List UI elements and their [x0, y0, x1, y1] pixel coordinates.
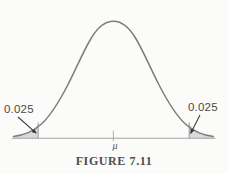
mean-symbol-label: μ: [105, 140, 125, 151]
right-tail-probability-label: 0.025: [188, 101, 218, 113]
figure-container: 0.025 0.025 μ FIGURE 7.11: [0, 0, 228, 174]
figure-caption: FIGURE 7.11: [0, 154, 228, 168]
normal-curve: [14, 21, 214, 136]
left-label-arrow: [18, 117, 36, 133]
left-tail-probability-label: 0.025: [4, 103, 34, 115]
